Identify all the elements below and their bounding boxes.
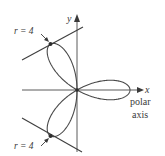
top-tip-point (49, 42, 53, 46)
bottom-pointer (41, 138, 49, 146)
origin-point (75, 88, 79, 92)
x-axis-label: x (144, 84, 150, 95)
polar-rose-figure: r = 4 r = 4 y x polar axis (0, 0, 165, 156)
bottom-tip-point (49, 134, 53, 138)
top-pointer (41, 34, 49, 42)
bottom-tangent-label: r = 4 (14, 141, 34, 151)
top-tangent-label: r = 4 (14, 26, 34, 36)
x-axis-arrow-icon (137, 87, 144, 93)
polar-axis-label-line2: axis (132, 109, 148, 120)
polar-axis-label-line1: polar (130, 96, 151, 107)
x-axis (22, 87, 144, 93)
y-axis-arrow-icon (74, 14, 80, 22)
y-axis-label: y (66, 13, 72, 24)
